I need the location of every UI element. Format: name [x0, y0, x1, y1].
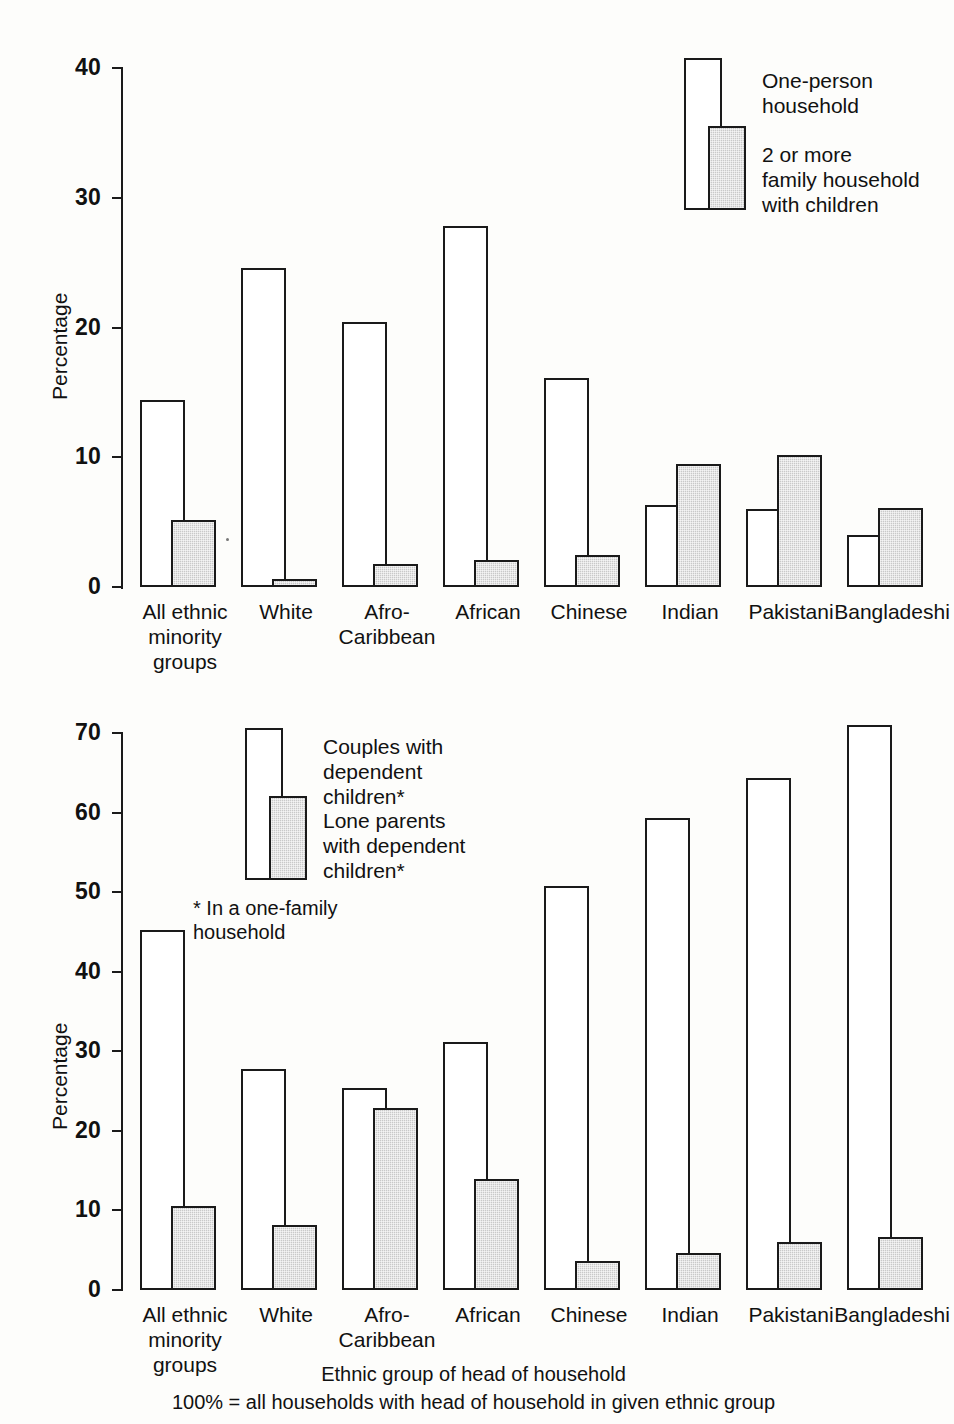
figure-footer-line-1: Ethnic group of head of household: [0, 1360, 947, 1388]
bar-open-1: [241, 268, 286, 587]
bar-open-4: [544, 886, 589, 1290]
y-tick-label-30: 30: [31, 186, 101, 209]
bar-filled-1: [272, 1225, 317, 1290]
scan-speck-2: [226, 538, 229, 541]
y-tick-40: [112, 971, 123, 973]
bar-open-5: [645, 818, 690, 1290]
bar-filled-3: [474, 1179, 519, 1290]
y-tick-label-70: 70: [31, 721, 101, 744]
y-tick-10: [112, 1209, 123, 1211]
bottom-chart-panel: 010203040506070 Percentage All ethnic mi…: [0, 700, 947, 1360]
bar-filled-5: [676, 1253, 721, 1290]
bottom-legend-label-lone-parents: Lone parents with dependent children*: [323, 808, 543, 883]
y-tick-label-0: 0: [31, 575, 101, 598]
bar-filled-7: [878, 1237, 923, 1290]
y-tick-label-0: 0: [31, 1278, 101, 1301]
top-y-axis-title: Percentage: [48, 293, 72, 400]
y-tick-70: [112, 732, 123, 734]
y-tick-label-10: 10: [31, 445, 101, 468]
bar-filled-0: [171, 1206, 216, 1290]
bar-filled-7: [878, 508, 923, 587]
y-tick-label-40: 40: [31, 960, 101, 983]
y-tick-label-10: 10: [31, 1198, 101, 1221]
bar-open-7: [847, 725, 892, 1290]
bottom-legend-label-couples: Couples with dependent children*: [323, 734, 523, 809]
bar-filled-6: [777, 455, 822, 587]
bar-filled-4: [575, 555, 620, 587]
bottom-legend-swatch-lone-parents: [269, 796, 307, 880]
bar-filled-2: [373, 1108, 418, 1290]
bar-filled-3: [474, 560, 519, 587]
bar-open-2: [342, 322, 387, 587]
bottom-legend: Couples with dependent children* Lone pa…: [245, 728, 575, 928]
y-tick-label-60: 60: [31, 801, 101, 824]
bar-filled-0: [171, 520, 216, 587]
top-legend: One-person household 2 or more family ho…: [684, 58, 944, 218]
y-tick-20: [112, 1130, 123, 1132]
top-legend-label-one-person: One-person household: [762, 68, 942, 118]
y-tick-30: [112, 197, 123, 199]
figure-footer-line-2: 100% = all households with head of house…: [0, 1388, 947, 1416]
bar-filled-5: [676, 464, 721, 587]
top-legend-swatch-family: [708, 126, 746, 210]
bottom-y-axis-title: Percentage: [48, 1023, 72, 1130]
y-tick-30: [112, 1050, 123, 1052]
bar-filled-4: [575, 1261, 620, 1290]
category-label-7: Bangladeshi: [812, 599, 954, 624]
y-tick-label-50: 50: [31, 880, 101, 903]
y-tick-20: [112, 327, 123, 329]
y-tick-10: [112, 456, 123, 458]
bar-open-3: [443, 226, 488, 587]
top-chart-panel: 010203040 Percentage All ethnic minority…: [0, 0, 947, 700]
category-label-7: Bangladeshi: [812, 1302, 954, 1327]
bottom-y-axis-line: [121, 733, 123, 1290]
bar-filled-6: [777, 1242, 822, 1290]
bottom-legend-footnote: * In a one-family household: [193, 896, 473, 944]
top-legend-label-family: 2 or more family household with children: [762, 142, 952, 217]
y-tick-label-40: 40: [31, 56, 101, 79]
top-y-axis-line: [121, 68, 123, 589]
bar-filled-2: [373, 564, 418, 587]
y-tick-40: [112, 67, 123, 69]
y-tick-0: [112, 1289, 123, 1291]
y-tick-0: [112, 586, 123, 588]
bar-filled-1: [272, 579, 317, 587]
y-tick-60: [112, 812, 123, 814]
bar-open-6: [746, 778, 791, 1290]
y-tick-50: [112, 891, 123, 893]
